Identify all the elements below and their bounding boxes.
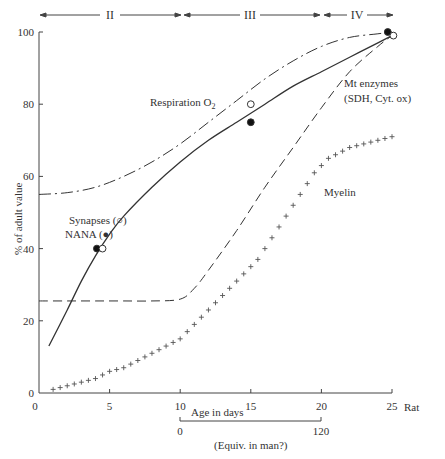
axes xyxy=(39,32,392,421)
myelin-label: Myelin xyxy=(324,186,356,198)
man-axis-start: 0 xyxy=(177,425,183,437)
synapses-label: Synapses (○) xyxy=(69,214,127,227)
nana-label: NANA (●) xyxy=(65,228,113,241)
man-axis-label: (Equiv. in man?) xyxy=(214,439,288,452)
x-tick-label: 0 xyxy=(32,400,38,412)
y-tick-label: 100 xyxy=(18,26,35,38)
series-lines xyxy=(39,32,395,392)
mt-enzymes-sublabel: (SDH, Cyt. ox) xyxy=(344,92,412,105)
y-tick-label: 60 xyxy=(23,170,35,182)
man-axis-end: 120 xyxy=(313,425,330,437)
y-tick-label: 20 xyxy=(23,315,35,327)
x-axis-label: Age in days xyxy=(191,406,244,418)
y-tick-label: 80 xyxy=(23,98,35,110)
stage-iv-label: IV xyxy=(351,8,364,22)
respiration-label: Respiration O2 xyxy=(150,96,215,111)
stage-ii-label: II xyxy=(106,8,114,22)
series-respiration-o2 xyxy=(39,32,392,194)
y-axis-label: % of adult value xyxy=(12,182,24,255)
x-tick-label: 25 xyxy=(387,400,399,412)
x-tick-label: 20 xyxy=(316,400,328,412)
x-tick-label: 5 xyxy=(107,400,113,412)
stage-iii-label: III xyxy=(244,8,256,22)
stage-arrows xyxy=(40,13,393,17)
open-data-point xyxy=(390,32,397,39)
series-myelin xyxy=(51,134,395,392)
mt-enzymes-label: Mt enzymes xyxy=(344,77,398,89)
x-axis-suffix: Rat xyxy=(404,401,419,413)
development-chart: 020406080100 0510152025 II III IV Respir… xyxy=(0,0,445,459)
filled-data-point xyxy=(247,119,254,126)
y-tick-label: 0 xyxy=(29,387,35,399)
open-data-point xyxy=(99,245,106,252)
open-data-point xyxy=(247,101,254,108)
x-tick-label: 10 xyxy=(175,400,187,412)
x-tick-label: 15 xyxy=(245,400,257,412)
y-tick-label: 40 xyxy=(23,243,35,255)
